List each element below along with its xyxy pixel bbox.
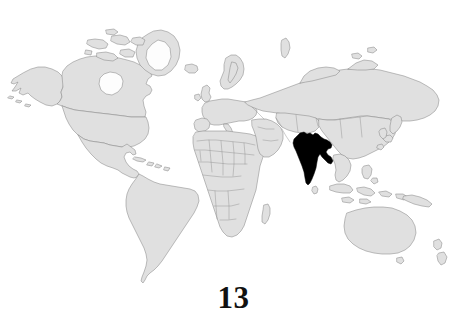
new-guinea	[403, 195, 432, 207]
region-south-america	[126, 174, 199, 283]
figure-number-caption: 13	[0, 281, 467, 315]
country-sri-lanka	[312, 186, 318, 194]
country-madagascar	[262, 204, 270, 224]
country-russia	[245, 68, 439, 121]
world-map-svg	[0, 0, 467, 285]
caribbean-islands	[133, 157, 170, 171]
region-asia	[245, 38, 439, 207]
region-europe	[185, 55, 257, 136]
world-map	[0, 0, 467, 285]
country-australia	[344, 207, 416, 254]
country-philippines	[362, 165, 378, 184]
region-indonesia	[330, 184, 408, 204]
aleutian-islands	[8, 96, 31, 107]
country-tasmania	[397, 257, 404, 264]
region-north-america	[8, 29, 180, 178]
country-new-zealand	[434, 239, 447, 265]
country-iceland	[185, 64, 198, 73]
country-india-highlight	[293, 132, 333, 185]
arctic-islands-russia	[281, 38, 377, 59]
scandinavia	[220, 55, 244, 89]
continent-south-america	[126, 174, 199, 283]
figure-container: 13	[0, 0, 467, 319]
british-isles	[195, 85, 211, 102]
region-oceania	[344, 207, 447, 265]
iberian-peninsula	[194, 118, 210, 132]
highlighted-country-india	[293, 132, 333, 185]
continent-africa	[193, 131, 265, 237]
